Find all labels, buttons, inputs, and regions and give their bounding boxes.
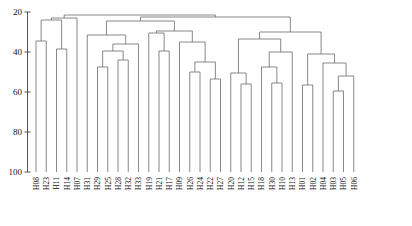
dendrogram-link [36,41,46,172]
leaf-label-h13: H13 [288,177,297,190]
dendrogram-link [57,49,67,172]
dendrogram-link [269,52,292,172]
leaf-label-h02: H02 [309,177,318,190]
leaf-label-h25: H25 [104,177,113,190]
dendrogram-link [241,84,251,172]
dendrogram-link [51,18,77,172]
leaf-label-h22: H22 [206,177,215,190]
leaf-label-h23: H23 [42,177,51,190]
leaf-label-h07: H07 [73,177,82,190]
dendrogram-link [338,76,353,172]
dendrogram-link [260,32,322,54]
dendrogram-link [118,60,128,172]
leaf-label-h24: H24 [196,177,205,190]
dendrogram-figure: 20406080100 H08H23H11H14H07H31H29H25H28H… [0,0,412,226]
dendrogram-link [195,62,216,79]
dendrogram-link [159,51,169,172]
leaf-label-h04: H04 [319,177,328,190]
dendrogram-link [308,54,335,85]
dendrogram-link [238,39,280,73]
leaf-label-h17: H17 [165,177,174,190]
leaf-label-h20: H20 [227,177,236,190]
dendrogram-link [272,83,282,172]
y-tick-label: 20 [13,7,23,17]
leaf-label-h01: H01 [298,177,307,190]
dendrogram-link [64,15,215,18]
leaf-label-h26: H26 [186,177,195,190]
dendrogram-link [303,85,313,172]
leaf-label-h19: H19 [145,177,154,190]
dendrogram-link [323,63,346,172]
dendrogram-link [98,67,108,172]
dendrogram-link [87,35,125,172]
dendrogram-link [190,72,200,172]
leaf-label-h32: H32 [124,177,133,190]
leaf-label-h03: H03 [329,177,338,190]
leaf-label-h31: H31 [83,177,92,190]
leaf-label-h28: H28 [114,177,123,190]
leaf-label-h08: H08 [32,177,41,190]
dendrogram-link [41,20,62,49]
dendrogram-link [333,91,343,172]
leaf-label-h33: H33 [134,177,143,190]
y-tick-label: 40 [13,47,23,57]
dendrogram-link [180,42,206,172]
leaf-label-h21: H21 [155,177,164,190]
leaf-label-h05: H05 [339,177,348,190]
y-tick-label: 60 [13,87,23,97]
leaf-label-h30: H30 [268,177,277,190]
leaf-label-h15: H15 [247,177,256,190]
dendrogram-link [231,73,246,172]
leaf-label-h06: H06 [350,177,359,190]
dendrogram-link [140,17,290,32]
leaf-labels: H08H23H11H14H07H31H29H25H28H32H33H19H21H… [32,177,359,190]
leaf-label-h10: H10 [278,177,287,190]
leaf-label-h09: H09 [175,177,184,190]
dendrogram-link [113,44,139,172]
leaf-label-h27: H27 [216,177,225,190]
y-tick-label: 100 [9,167,23,177]
y-tick-label: 80 [13,127,23,137]
leaf-label-h11: H11 [52,177,61,190]
dendrogram-links [36,15,354,172]
dendrogram-link [149,33,164,172]
dendrogram-plot: 20406080100 H08H23H11H14H07H31H29H25H28H… [0,0,412,226]
leaf-label-h29: H29 [93,177,102,190]
leaf-label-h18: H18 [257,177,266,190]
dendrogram-link [210,79,220,172]
leaf-label-h12: H12 [237,177,246,190]
leaf-label-h14: H14 [63,177,72,190]
dendrogram-link [103,51,124,67]
